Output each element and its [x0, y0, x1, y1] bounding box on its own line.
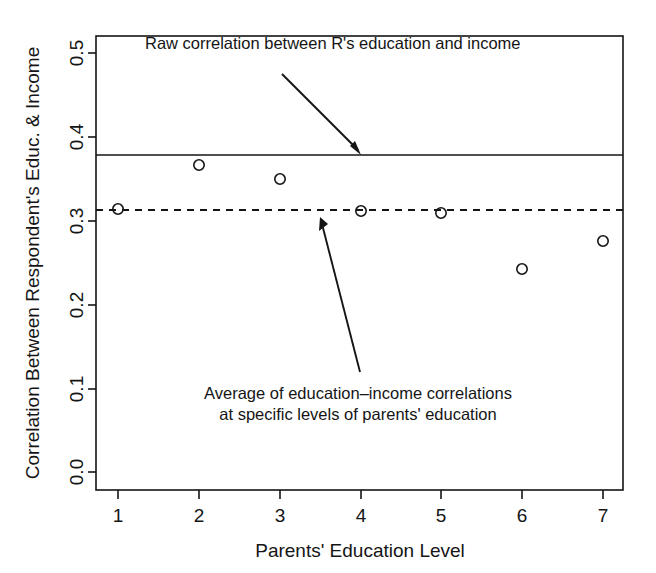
x-tick-label-3: 3	[275, 505, 286, 526]
y-tick-label-1: 0.1	[66, 376, 87, 402]
x-tick-label-1: 1	[113, 505, 124, 526]
x-tick-label-4: 4	[356, 505, 367, 526]
data-point-4	[356, 206, 366, 216]
y-tick-label-2: 0.2	[66, 292, 87, 318]
x-tick-label-6: 6	[517, 505, 528, 526]
x-tick-label-5: 5	[436, 505, 447, 526]
y-tick-label-4: 0.4	[66, 123, 87, 150]
raw-correlation-arrow-shaft	[282, 74, 358, 150]
data-point-3	[275, 174, 285, 184]
x-axis-tick-labels: 1 2 3 4 5 6 7	[113, 505, 609, 526]
y-axis-ticks	[88, 53, 96, 472]
data-point-7	[598, 236, 608, 246]
average-correlation-annotation-line-1: Average of education–income correlations	[204, 384, 512, 402]
data-point-series	[113, 160, 608, 274]
raw-correlation-arrow	[282, 74, 361, 155]
raw-correlation-annotation-text: Raw correlation between R's education an…	[145, 34, 521, 52]
chart-page: 0.5 0.4 0.3 0.2 0.1 0.0 Correlation Betw…	[0, 0, 656, 573]
x-axis-ticks	[118, 490, 603, 499]
data-point-1	[113, 204, 123, 214]
y-axis-tick-labels: 0.5 0.4 0.3 0.2 0.1 0.0	[66, 40, 87, 485]
average-correlation-annotation-line-2: at specific levels of parents' education	[219, 405, 496, 423]
data-point-6	[517, 264, 527, 274]
y-tick-label-0: 0.0	[66, 459, 87, 485]
y-tick-label-3: 0.3	[66, 208, 87, 234]
x-tick-label-7: 7	[598, 505, 609, 526]
average-correlation-arrow-shaft	[322, 224, 360, 372]
x-axis-title: Parents' Education Level	[255, 540, 465, 561]
data-point-2	[194, 160, 204, 170]
average-correlation-arrow	[319, 217, 360, 372]
y-tick-label-5: 0.5	[66, 40, 87, 66]
x-tick-label-2: 2	[194, 505, 205, 526]
y-axis-title: Correlation Between Respondent's Educ. &…	[22, 47, 43, 479]
scatter-plot-figure: 0.5 0.4 0.3 0.2 0.1 0.0 Correlation Betw…	[0, 0, 656, 573]
